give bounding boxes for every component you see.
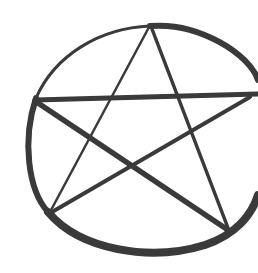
pentagram-drawing xyxy=(0,0,258,273)
star-lines xyxy=(35,29,258,230)
